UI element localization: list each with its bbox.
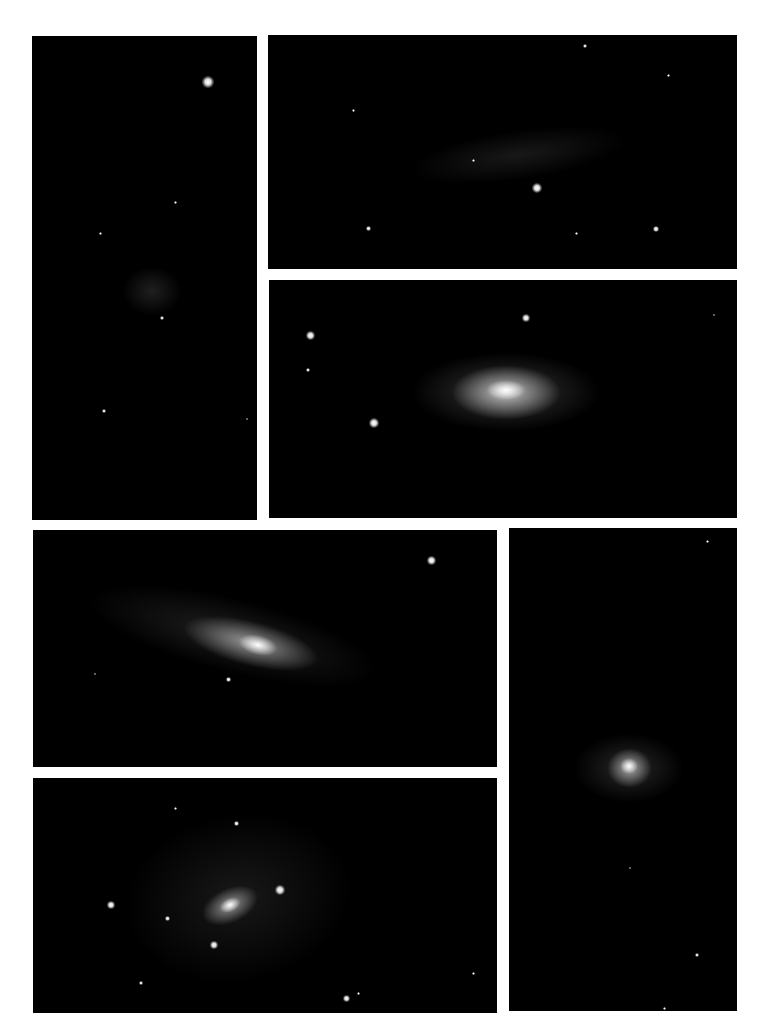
star (306, 368, 310, 372)
star (352, 109, 355, 112)
galaxy-image-panel-1 (32, 36, 257, 520)
star (306, 331, 315, 340)
star (667, 74, 670, 77)
galaxy-image-panel-6 (509, 528, 737, 1011)
galaxy-image-panel-4 (33, 530, 497, 767)
star (202, 76, 214, 88)
star (695, 953, 699, 957)
star (663, 1007, 666, 1010)
star (234, 821, 239, 826)
star (575, 232, 578, 235)
star (472, 972, 475, 975)
star (139, 981, 143, 985)
star (472, 159, 475, 162)
star (532, 183, 542, 193)
galaxy-image-panel-5 (33, 778, 497, 1013)
galaxy-core (620, 758, 638, 774)
star (653, 226, 659, 232)
star (246, 418, 248, 420)
star (343, 995, 350, 1002)
star (706, 540, 709, 543)
star (174, 807, 177, 810)
galaxy-image-panel-3 (269, 280, 737, 518)
galaxy-core (122, 266, 182, 316)
star (226, 677, 231, 682)
star (583, 44, 587, 48)
star (107, 901, 115, 909)
star (94, 673, 96, 675)
star (357, 992, 360, 995)
star (369, 418, 379, 428)
star (713, 314, 715, 316)
star (629, 867, 631, 869)
star (522, 314, 530, 322)
star (366, 226, 371, 231)
star (275, 885, 285, 895)
star (210, 941, 218, 949)
star (160, 316, 164, 320)
star (102, 409, 106, 413)
star (174, 201, 177, 204)
galaxy-core (406, 115, 631, 195)
galaxy-image-panel-2 (268, 35, 737, 269)
star (165, 916, 170, 921)
galaxy-core (486, 380, 526, 400)
star (99, 232, 102, 235)
star (427, 556, 436, 565)
